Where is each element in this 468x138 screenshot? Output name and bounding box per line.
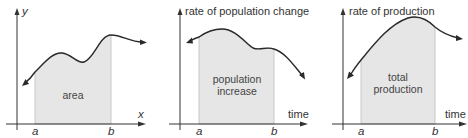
total-production-label-line1: total <box>388 71 408 83</box>
x-axis-arrow-icon <box>459 122 467 127</box>
area-label: area <box>62 89 83 101</box>
population-increase-label-line1: population <box>213 73 262 85</box>
a-label: a <box>196 125 202 137</box>
y-axis-label: y <box>21 5 29 17</box>
y-axis-label: rate of production <box>349 5 435 17</box>
x-axis-arrow-icon <box>300 122 308 127</box>
panel-production: rate of production time a b total produc… <box>332 5 467 137</box>
panel-area: y x a b area <box>6 5 147 137</box>
y-axis-arrow-icon <box>15 8 20 15</box>
curve-left-arrow-icon <box>347 72 354 80</box>
x-axis-arrow-icon <box>138 122 146 127</box>
curve-right-arrow-icon <box>456 35 463 41</box>
panel-population: rate of population change time a b popul… <box>169 5 309 137</box>
x-axis-label: x <box>137 108 145 120</box>
x-axis-label: time <box>445 108 466 120</box>
a-label: a <box>358 125 364 137</box>
b-label: b <box>271 125 278 137</box>
y-axis-arrow-icon <box>178 8 183 15</box>
area-under-curve-diagrams: y x a b area rate of population change t… <box>0 0 468 138</box>
x-axis-label: time <box>288 108 309 120</box>
y-axis-arrow-icon <box>341 8 346 15</box>
a-label: a <box>32 125 38 137</box>
curve-left-arrow-icon <box>186 38 193 44</box>
curve-right-arrow-icon <box>140 40 147 46</box>
shaded-area-region <box>35 35 111 124</box>
y-axis-label: rate of population change <box>185 5 309 17</box>
b-label: b <box>108 125 115 137</box>
population-increase-label-line2: increase <box>217 85 257 97</box>
b-label: b <box>432 125 439 137</box>
total-production-label-line2: production <box>373 83 422 95</box>
